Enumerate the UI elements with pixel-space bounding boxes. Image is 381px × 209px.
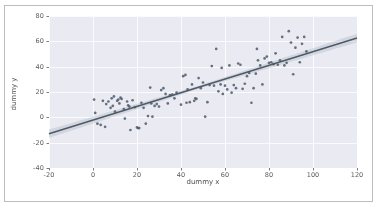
- x-tick-label: -20: [44, 171, 55, 179]
- y-tick-label: 20: [26, 88, 44, 96]
- x-tick-label: 40: [177, 171, 185, 179]
- x-axis-title: dummy x: [186, 178, 219, 186]
- x-tick-label: 20: [133, 171, 141, 179]
- y-tick-label: 40: [26, 63, 44, 71]
- x-tick-label: 100: [307, 171, 320, 179]
- x-tick-label: 120: [351, 171, 364, 179]
- y-tick-label: -40: [26, 164, 44, 172]
- y-axis-title: dummy y: [10, 77, 18, 110]
- y-tick-label: 0: [26, 113, 44, 121]
- y-tick-label: 60: [26, 37, 44, 45]
- y-tick-label: 80: [26, 12, 44, 20]
- x-tick-label: 0: [91, 171, 95, 179]
- y-tick-label: -20: [26, 139, 44, 147]
- x-tick-label: 60: [221, 171, 229, 179]
- x-tick-label: 80: [265, 171, 273, 179]
